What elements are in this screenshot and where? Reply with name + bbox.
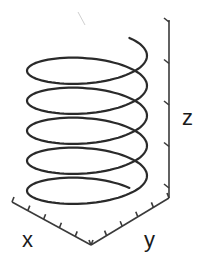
- tick-mark: [44, 214, 46, 219]
- tick-mark: [151, 202, 153, 207]
- z-axis-label: z: [182, 107, 193, 129]
- faint-mark: [78, 12, 85, 25]
- tick-mark: [59, 223, 61, 228]
- y-axis-label: y: [144, 229, 155, 251]
- x-axis-label: x: [22, 229, 33, 251]
- helix-curve: [27, 38, 147, 204]
- tick-mark: [28, 206, 30, 211]
- z-axis: [164, 18, 169, 198]
- tick-mark: [12, 197, 14, 202]
- tick-mark: [120, 221, 122, 226]
- tick-mark: [105, 231, 107, 236]
- tick-mark: [136, 212, 138, 217]
- helix-figure: x y z: [0, 0, 207, 273]
- tick-mark: [75, 231, 77, 236]
